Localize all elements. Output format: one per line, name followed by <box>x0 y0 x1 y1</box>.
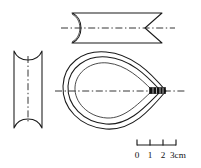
figure-root: 0 1 2 3cm <box>0 0 201 168</box>
loop-inner-contour <box>68 57 160 124</box>
scale-tick-label-0: 0 <box>135 150 140 160</box>
scale-tick-label-2: 2 <box>161 150 166 160</box>
end-view-band <box>14 51 42 128</box>
top-view-band <box>61 13 175 43</box>
side-view-loop <box>55 52 186 129</box>
artifact-line-drawing: 0 1 2 3cm <box>0 0 201 168</box>
scale-tick-label-1: 1 <box>148 150 153 160</box>
scale-tick-label-3: 3cm <box>170 150 186 160</box>
scale-bar: 0 1 2 3cm <box>135 140 186 161</box>
